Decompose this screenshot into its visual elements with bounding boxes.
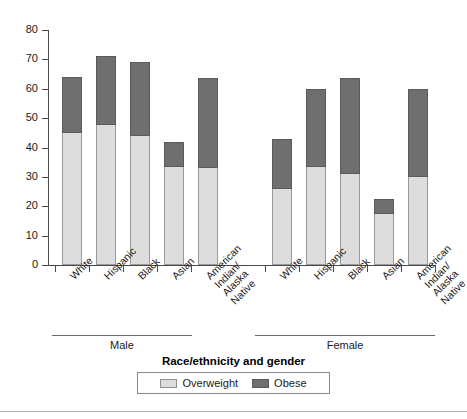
bottom-separator xyxy=(0,411,467,412)
bar-segment-obese xyxy=(164,142,184,167)
x-tick xyxy=(265,266,266,272)
legend-label-obese: Obese xyxy=(274,377,306,389)
bar-female-8 xyxy=(374,199,394,265)
bar-female-6 xyxy=(306,89,326,265)
legend-item-obese: Obese xyxy=(252,377,306,389)
y-tick-0 xyxy=(42,265,49,266)
y-tick-label-10: 10 xyxy=(8,230,38,241)
x-tick xyxy=(55,266,56,272)
bar-segment-obese xyxy=(340,78,360,173)
bar-segment-overweight xyxy=(164,167,184,265)
x-axis-title: Race/ethnicity and gender xyxy=(0,355,467,367)
group-label-female: Female xyxy=(255,339,435,351)
y-tick-label-0: 0 xyxy=(8,259,38,270)
bar-segment-obese xyxy=(96,56,116,125)
legend-swatch-obese-icon xyxy=(252,379,269,388)
group-label-male: Male xyxy=(52,339,192,351)
bar-segment-overweight xyxy=(408,177,428,265)
y-tick-label-50: 50 xyxy=(8,112,38,123)
bar-male-3 xyxy=(164,142,184,265)
bar-segment-overweight xyxy=(96,125,116,265)
bar-female-9 xyxy=(408,89,428,265)
bar-female-5 xyxy=(272,139,292,265)
bar-segment-overweight xyxy=(374,214,394,265)
bar-male-1 xyxy=(96,56,116,265)
legend-swatch-overweight-icon xyxy=(160,379,177,388)
chart-figure: 01020304050607080 WhiteHispanicBlackAsia… xyxy=(0,0,467,419)
group-rule-female xyxy=(255,335,435,336)
y-tick-label-30: 30 xyxy=(8,171,38,182)
y-tick-label-60: 60 xyxy=(8,83,38,94)
y-tick-label-20: 20 xyxy=(8,200,38,211)
legend-item-overweight: Overweight xyxy=(160,377,238,389)
bar-male-0 xyxy=(62,77,82,265)
bar-segment-overweight xyxy=(198,168,218,265)
bar-male-2 xyxy=(130,62,150,265)
bar-segment-overweight xyxy=(62,133,82,265)
bar-segment-obese xyxy=(306,89,326,167)
group-rule-male xyxy=(52,335,192,336)
y-tick-label-70: 70 xyxy=(8,53,38,64)
bar-segment-obese xyxy=(62,77,82,133)
bar-segment-obese xyxy=(272,139,292,189)
bar-segment-obese xyxy=(408,89,428,177)
bar-segment-overweight xyxy=(272,189,292,265)
bar-female-7 xyxy=(340,78,360,265)
y-tick-label-40: 40 xyxy=(8,142,38,153)
y-tick-label-80: 80 xyxy=(8,24,38,35)
bar-segment-obese xyxy=(130,62,150,135)
bar-segment-overweight xyxy=(130,136,150,265)
bar-segment-overweight xyxy=(306,167,326,265)
bar-segment-obese xyxy=(198,78,218,168)
bar-segment-obese xyxy=(374,199,394,214)
legend-label-overweight: Overweight xyxy=(182,377,238,389)
chart-legend: Overweight Obese xyxy=(137,372,330,394)
bar-male-4 xyxy=(198,78,218,265)
plot-area xyxy=(48,30,436,265)
